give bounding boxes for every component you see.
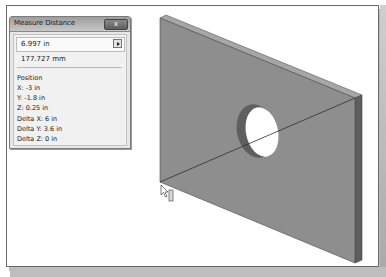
dialog-title: Measure Distance	[14, 19, 75, 27]
plate-side-face	[355, 95, 362, 263]
x-value: X: -3 in	[17, 84, 40, 92]
z-value: Z: 0.25 in	[17, 104, 48, 112]
distance-inches: 6.997 in	[21, 40, 50, 48]
expand-arrow-button[interactable]	[113, 39, 122, 48]
dialog-titlebar[interactable]: Measure Distance x	[10, 17, 130, 32]
distance-millimeters: 177.727 mm	[21, 55, 66, 63]
y-value: Y: -1.8 in	[17, 94, 45, 102]
position-label: Position	[17, 74, 42, 82]
delta-x-value: Delta X: 6 in	[17, 115, 57, 123]
delta-z-value: Delta Z: 0 in	[17, 135, 57, 143]
dialog-body: 6.997 in 177.727 mm Position X: -3 in Y:…	[13, 34, 127, 146]
pointer-with-measure-icon	[161, 185, 173, 201]
close-button[interactable]: x	[104, 19, 128, 30]
measure-distance-dialog[interactable]: Measure Distance x 6.997 in 177.727 mm P…	[9, 16, 131, 149]
distance-value-field[interactable]: 6.997 in	[16, 37, 125, 52]
separator	[17, 67, 122, 68]
close-icon: x	[114, 20, 118, 28]
delta-y-value: Delta Y: 3.6 in	[17, 125, 62, 133]
